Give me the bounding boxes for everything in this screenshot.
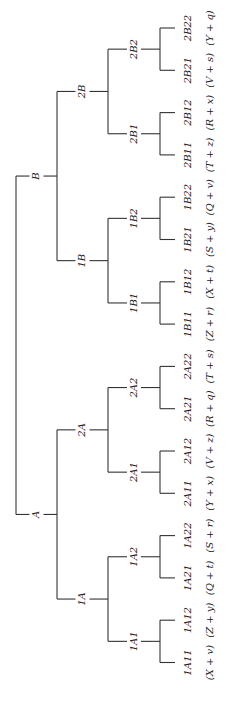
node-label: 1A xyxy=(76,592,87,606)
leaf-label: 1A21 xyxy=(182,565,193,591)
leaf-label: 2A12 xyxy=(182,438,193,465)
leaf-expression: (Y + x) xyxy=(204,476,215,511)
node-label: 1A2 xyxy=(128,547,139,567)
tree-diagram: 2B22(Y + q)2B21(V + s)2B12(R + x)2B11(T … xyxy=(0,0,228,708)
leaf-label: 2B21 xyxy=(182,57,193,84)
leaf-expression: (Q + t) xyxy=(204,560,215,595)
leaf-label: 2A21 xyxy=(182,396,193,423)
leaf-label: 1B11 xyxy=(182,311,193,337)
node-label: 2B1 xyxy=(128,124,139,145)
node-label: 2A2 xyxy=(128,378,139,399)
leaf-expression: (R + x) xyxy=(204,95,215,131)
leaf-expression: (T + z) xyxy=(204,138,215,173)
node-label: 2B xyxy=(76,85,87,100)
leaf-expression: (Z + r) xyxy=(204,307,215,341)
leaf-expression: (S + y) xyxy=(204,222,215,257)
leaf-expression: (V + s) xyxy=(204,53,215,88)
node-label: 1A1 xyxy=(128,631,139,651)
leaf-label: 1A11 xyxy=(182,649,193,675)
leaf-label: 2B22 xyxy=(182,15,193,42)
leaf-label: 2A11 xyxy=(182,480,193,507)
node-label: 2A1 xyxy=(128,462,139,483)
node-label: 1B2 xyxy=(128,208,139,228)
leaf-expression: (T + s) xyxy=(204,349,215,383)
node-label: 1B1 xyxy=(128,293,139,313)
leaf-expression: (S + r) xyxy=(204,518,215,552)
leaf-label: 1B22 xyxy=(182,184,193,210)
leaf-expression: (Y + q) xyxy=(204,10,215,46)
leaf-expression: (X + t) xyxy=(204,265,215,299)
node-label: 1B xyxy=(76,254,87,268)
leaf-label: 2A22 xyxy=(182,353,193,380)
leaf-label: 2B11 xyxy=(182,142,193,169)
leaf-expression: (X + v) xyxy=(204,645,215,680)
node-label: 2A xyxy=(76,423,87,438)
leaf-expression: (V + z) xyxy=(204,433,215,468)
leaf-label: 1A22 xyxy=(182,522,193,548)
node-label: B xyxy=(30,172,41,180)
node-label: A xyxy=(30,511,41,519)
tree-canvas: 2B22(Y + q)2B21(V + s)2B12(R + x)2B11(T … xyxy=(0,0,228,708)
leaf-label: 1B12 xyxy=(182,269,193,295)
leaf-expression: (Q + v) xyxy=(204,179,215,215)
leaf-label: 1A12 xyxy=(182,607,193,633)
node-label: 2B2 xyxy=(128,39,139,60)
leaf-label: 2B12 xyxy=(182,99,193,126)
leaf-label: 1B21 xyxy=(182,226,193,252)
leaf-expression: (Z + y) xyxy=(204,603,215,638)
leaf-expression: (R + q) xyxy=(204,390,215,427)
